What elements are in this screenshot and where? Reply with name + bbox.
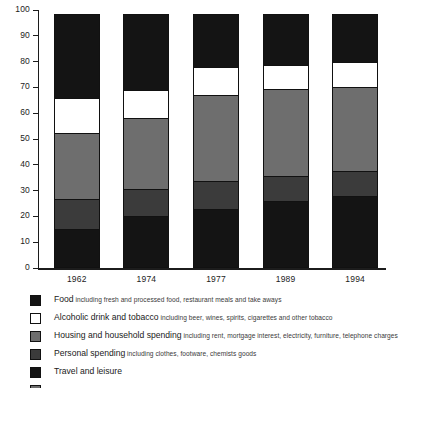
legend-swatch-icon xyxy=(30,385,41,388)
legend-description: including clothes, footware, chemists go… xyxy=(125,350,256,357)
bar-group xyxy=(38,10,386,268)
bar-1962 xyxy=(54,10,100,268)
x-axis-label: 1989 xyxy=(263,273,309,285)
bar-1989 xyxy=(263,10,309,268)
legend-description: including fresh and processed food, rest… xyxy=(74,296,282,303)
bar-segment xyxy=(263,65,309,91)
x-axis-label: 1962 xyxy=(54,273,100,285)
y-tick-label: 40 xyxy=(20,159,30,170)
legend-item xyxy=(0,384,424,388)
bar-1977 xyxy=(193,10,239,268)
legend-swatch-icon xyxy=(30,331,41,342)
legend-title: Housing and household spending xyxy=(54,330,182,340)
bar-segment xyxy=(332,196,378,268)
y-tick-label: 30 xyxy=(20,185,30,196)
bar-segment xyxy=(193,14,239,68)
legend-swatch-icon xyxy=(30,313,41,324)
bar-segment xyxy=(54,229,100,268)
bar-segment xyxy=(54,199,100,230)
bar-segment xyxy=(263,14,309,66)
bar-segment xyxy=(263,176,309,202)
stacked-bar-chart: 0102030405060708090100 19621974197719891… xyxy=(0,0,424,292)
bar-segment xyxy=(193,181,239,209)
bar-segment xyxy=(123,216,169,268)
bar-segment xyxy=(332,14,378,63)
bar-segment xyxy=(332,62,378,88)
legend-text: Food including fresh and processed food,… xyxy=(54,294,282,306)
y-tick-label: 20 xyxy=(20,210,30,221)
bar-segment xyxy=(123,14,169,91)
bar-1994 xyxy=(332,10,378,268)
bar-segment xyxy=(263,201,309,268)
y-tick-label: 80 xyxy=(20,56,30,67)
legend-item: Alcoholic drink and tobacco including be… xyxy=(0,312,424,324)
y-tick-label: 0 xyxy=(25,262,30,273)
bar-segment xyxy=(54,14,100,99)
x-axis-line xyxy=(38,268,386,270)
bar-segment xyxy=(332,171,378,197)
x-axis-label: 1974 xyxy=(123,273,169,285)
x-axis-labels: 19621974197719891994 xyxy=(38,273,386,287)
legend-swatch-icon xyxy=(30,295,41,306)
y-tick-label: 100 xyxy=(15,4,30,15)
bar-segment xyxy=(54,98,100,134)
legend-title: Food xyxy=(54,294,74,304)
legend-item: Food including fresh and processed food,… xyxy=(0,294,424,306)
bar-segment xyxy=(123,90,169,118)
bar-segment xyxy=(193,95,239,183)
legend-text: Housing and household spending including… xyxy=(54,330,398,342)
legend-title: Travel and leisure xyxy=(54,366,122,376)
bar-segment xyxy=(332,87,378,172)
legend-swatch-icon xyxy=(30,367,41,378)
legend-description: including beer, wines, spirits, cigarett… xyxy=(159,314,333,321)
bar-segment xyxy=(193,67,239,95)
x-axis-label: 1994 xyxy=(332,273,378,285)
y-tick-label: 60 xyxy=(20,107,30,118)
y-tick-label: 70 xyxy=(20,81,30,92)
chart-legend: Food including fresh and processed food,… xyxy=(0,294,424,388)
bar-segment xyxy=(193,209,239,268)
legend-description: including rent, mortgage interest, elect… xyxy=(182,332,398,339)
bar-1974 xyxy=(123,10,169,268)
legend-title: Alcoholic drink and tobacco xyxy=(54,312,159,322)
y-tick-label: 10 xyxy=(20,236,30,247)
legend-item: Travel and leisure xyxy=(0,366,424,378)
legend-text: Alcoholic drink and tobacco including be… xyxy=(54,312,332,324)
legend-item: Housing and household spending including… xyxy=(0,330,424,342)
legend-text: Personal spending including clothes, foo… xyxy=(54,348,256,360)
bar-segment xyxy=(54,133,100,200)
y-tick-label: 50 xyxy=(20,133,30,144)
bar-segment xyxy=(123,189,169,217)
x-axis-label: 1977 xyxy=(193,273,239,285)
legend-title: Personal spending xyxy=(54,348,125,358)
bar-segment xyxy=(263,89,309,177)
legend-text: Travel and leisure xyxy=(54,366,122,378)
legend-item: Personal spending including clothes, foo… xyxy=(0,348,424,360)
legend-swatch-icon xyxy=(30,349,41,360)
bar-segment xyxy=(123,118,169,190)
y-tick-label: 90 xyxy=(20,30,30,41)
